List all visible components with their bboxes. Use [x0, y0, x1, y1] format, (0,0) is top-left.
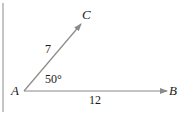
side-ab-length-label: 12 — [89, 93, 101, 107]
side-ac-length-label: 7 — [45, 42, 51, 56]
angle-label: 50° — [45, 72, 62, 86]
point-b-label: B — [169, 83, 177, 98]
point-a-label: A — [10, 83, 19, 98]
vector-diagram: A B C 7 12 50° — [0, 0, 185, 115]
point-c-label: C — [82, 7, 91, 22]
